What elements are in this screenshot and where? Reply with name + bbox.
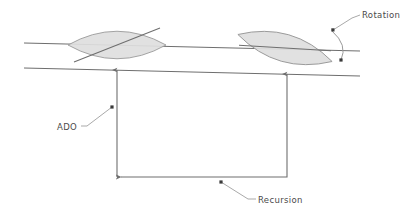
rotation-leader-dot	[331, 28, 334, 31]
label-recursion: Recursion	[258, 195, 303, 205]
recursion-path-line	[121, 173, 287, 177]
ado-arrows-group	[117, 70, 287, 177]
recursion-leader-line	[221, 182, 256, 199]
rotation-leader-line	[333, 15, 360, 30]
lens-left	[68, 28, 166, 62]
label-rotation: Rotation	[362, 10, 400, 20]
diagram-canvas: Rotation ADO Recursion	[0, 0, 420, 219]
diagram-svg: Rotation ADO Recursion	[0, 0, 420, 219]
lower-guide-line	[24, 68, 360, 76]
rotation-arc-end-dot	[339, 58, 342, 61]
ado-leader-dot	[110, 105, 113, 108]
rotation-arc-curve	[332, 31, 343, 60]
recursion-leader-dot	[219, 180, 222, 183]
label-ado: ADO	[57, 122, 77, 132]
ado-leader-line	[81, 107, 112, 126]
recursion-return-path	[121, 173, 287, 177]
rotation-arc	[332, 31, 343, 60]
